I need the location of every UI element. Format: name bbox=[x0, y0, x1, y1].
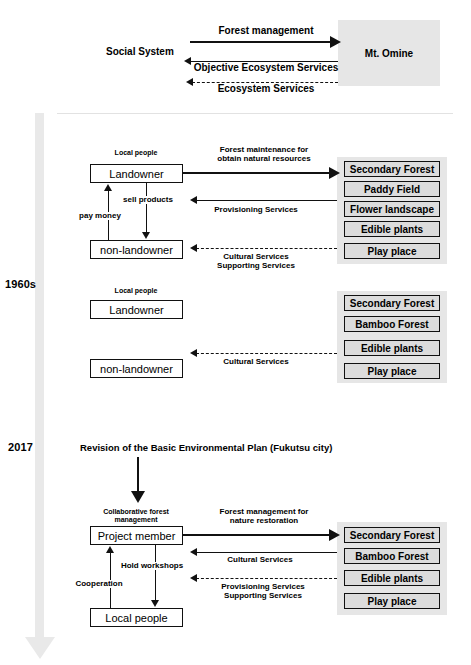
node-landowner-a: Landowner bbox=[90, 164, 183, 183]
timeline-shaft bbox=[35, 113, 44, 638]
flow-label-line2: Supporting Services bbox=[224, 591, 302, 600]
flow-forest-management-arrowhead bbox=[330, 36, 341, 48]
eco-box-secondary-forest-b: Secondary Forest bbox=[344, 295, 440, 311]
flow-cultural-supporting-a-label: Cultural Services Supporting Services bbox=[196, 253, 316, 271]
eco-label: Edible plants bbox=[361, 343, 423, 354]
timeline-arrowhead bbox=[25, 637, 55, 659]
group-label-local-people-a: Local people bbox=[115, 149, 158, 156]
flow-provisioning-supporting-2017-line bbox=[196, 578, 337, 579]
flow-provisioning-supporting-2017-arrowhead bbox=[190, 574, 197, 582]
eco-label: Edible plants bbox=[361, 224, 423, 235]
eco-box-edible-plants-2017: Edible plants bbox=[344, 570, 440, 586]
flow-label-line1: Provisioning Services bbox=[221, 582, 305, 591]
group-label-line2: management bbox=[114, 516, 157, 523]
event-2017-label: Revision of the Basic Environmental Plan… bbox=[80, 443, 332, 453]
event-2017-arrowhead bbox=[131, 491, 145, 503]
flow-cultural-2017-arrowhead bbox=[190, 548, 197, 556]
eco-box-edible-plants-a: Edible plants bbox=[344, 221, 440, 237]
flow-provisioning-a-label: Provisioning Services bbox=[214, 206, 298, 214]
flow-forest-mgmt-nature-line bbox=[183, 534, 335, 536]
flow-ecosystem-services-arrowhead bbox=[186, 78, 193, 86]
flow-cooperation-label: Cooperation bbox=[73, 580, 124, 588]
eco-box-play-place-2017: Play place bbox=[344, 593, 440, 609]
eco-label: Flower landscape bbox=[350, 204, 434, 215]
flow-forest-maintenance-arrowhead bbox=[329, 167, 340, 179]
node-project-member: Project member bbox=[90, 526, 183, 545]
eco-label: Play place bbox=[368, 366, 417, 377]
flow-sell-products-label: sell products bbox=[121, 196, 175, 204]
flow-provisioning-a-line bbox=[196, 200, 337, 201]
timeline-year-2017: 2017 bbox=[8, 442, 33, 454]
flow-forest-maintenance-line bbox=[183, 172, 335, 174]
flow-cooperation-arrowhead bbox=[106, 546, 114, 553]
flow-forest-mgmt-nature-arrowhead bbox=[329, 529, 340, 541]
mt-omine-block: Mt. Omine bbox=[338, 20, 440, 86]
section-divider bbox=[57, 113, 453, 114]
node-label: Landowner bbox=[109, 168, 163, 180]
mt-omine-label: Mt. Omine bbox=[365, 48, 413, 59]
eco-label: Edible plants bbox=[361, 573, 423, 584]
flow-hold-workshops-arrowhead bbox=[151, 600, 159, 607]
eco-label: Bamboo Forest bbox=[355, 551, 428, 562]
eco-box-secondary-forest-2017: Secondary Forest bbox=[344, 527, 440, 543]
flow-pay-money-label: pay money bbox=[77, 212, 123, 220]
social-system-label: Social System bbox=[106, 47, 174, 58]
flow-label-line1: Cultural Services bbox=[223, 252, 288, 261]
eco-label: Secondary Forest bbox=[350, 530, 434, 541]
eco-label: Secondary Forest bbox=[350, 164, 434, 175]
flow-label-line2: Supporting Services bbox=[217, 261, 295, 270]
eco-box-flower-landscape: Flower landscape bbox=[344, 201, 440, 217]
node-label: non-landowner bbox=[100, 363, 173, 375]
eco-box-play-place-a: Play place bbox=[344, 243, 440, 259]
eco-label: Bamboo Forest bbox=[355, 319, 428, 330]
node-non-landowner-a: non-landowner bbox=[90, 240, 183, 259]
group-label-collaborative-forest-management: Collaborative forest management bbox=[81, 508, 191, 524]
eco-box-bamboo-forest-2017: Bamboo Forest bbox=[344, 548, 440, 564]
flow-pay-money-arrowhead bbox=[104, 184, 112, 191]
flow-objective-es-label: Objective Ecosystem Services bbox=[194, 63, 339, 74]
flow-forest-maintenance-label: Forest maintenance for obtain natural re… bbox=[204, 146, 324, 164]
figure-canvas: 1960s 2017 Mt. Omine Social System Fores… bbox=[0, 0, 471, 665]
eco-box-play-place-b: Play place bbox=[344, 363, 440, 379]
flow-cultural-2017-label: Cultural Services bbox=[227, 556, 292, 564]
flow-forest-management-label: Forest management bbox=[218, 26, 313, 37]
eco-box-bamboo-forest-b: Bamboo Forest bbox=[344, 316, 440, 332]
flow-provisioning-supporting-2017-label: Provisioning Services Supporting Service… bbox=[198, 583, 328, 601]
eco-label: Play place bbox=[368, 596, 417, 607]
flow-hold-workshops-line bbox=[155, 545, 156, 601]
flow-hold-workshops-label: Hold workshops bbox=[119, 562, 185, 570]
node-label: Landowner bbox=[109, 304, 163, 316]
flow-provisioning-a-arrowhead bbox=[190, 196, 197, 204]
node-label: Project member bbox=[98, 530, 176, 542]
node-landowner-b: Landowner bbox=[90, 300, 183, 319]
flow-cultural-2017-line bbox=[196, 552, 337, 553]
flow-ecosystem-services-label: Ecosystem Services bbox=[218, 84, 315, 95]
eco-label: Secondary Forest bbox=[350, 298, 434, 309]
flow-label-line2: obtain natural resources bbox=[217, 154, 310, 163]
flow-objective-es-arrowhead bbox=[184, 57, 191, 65]
eco-box-paddy-field: Paddy Field bbox=[344, 181, 440, 197]
flow-cultural-b-line bbox=[196, 353, 337, 354]
node-non-landowner-b: non-landowner bbox=[90, 359, 183, 378]
eco-label: Play place bbox=[368, 246, 417, 257]
flow-cultural-b-arrowhead bbox=[190, 349, 197, 357]
node-local-people: Local people bbox=[90, 608, 183, 627]
flow-cultural-supporting-a-line bbox=[196, 248, 337, 249]
flow-sell-products-arrowhead bbox=[142, 232, 150, 239]
eco-label: Paddy Field bbox=[364, 184, 420, 195]
eco-box-edible-plants-b: Edible plants bbox=[344, 340, 440, 356]
flow-label-line2: nature restoration bbox=[230, 516, 298, 525]
event-2017-arrow-line bbox=[137, 457, 139, 493]
node-label: non-landowner bbox=[100, 244, 173, 256]
flow-forest-management-line bbox=[190, 41, 338, 43]
timeline-year-1960s: 1960s bbox=[5, 279, 36, 291]
flow-label-line1: Forest maintenance for bbox=[220, 145, 308, 154]
flow-sell-products-line bbox=[146, 183, 147, 233]
node-label: Local people bbox=[105, 612, 167, 624]
flow-forest-mgmt-nature-label: Forest management for nature restoration bbox=[202, 508, 326, 526]
flow-cultural-b-label: Cultural Services bbox=[223, 358, 288, 366]
flow-cultural-supporting-a-arrowhead bbox=[190, 244, 197, 252]
group-label-local-people-b: Local people bbox=[115, 287, 158, 294]
eco-box-secondary-forest-a: Secondary Forest bbox=[344, 161, 440, 177]
group-label-line1: Collaborative forest bbox=[103, 508, 169, 515]
